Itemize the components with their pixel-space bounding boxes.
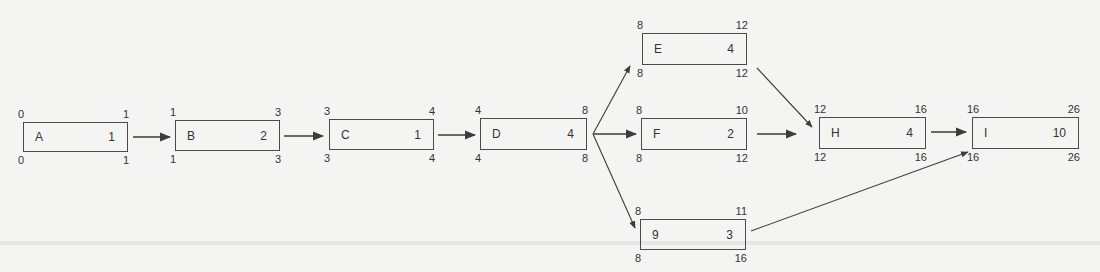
early-finish-label: 8 (582, 105, 588, 116)
activity-name: D (492, 127, 501, 141)
activity-duration: 3 (726, 228, 733, 242)
early-finish-label: 26 (1068, 104, 1080, 115)
early-start-label: 1 (170, 107, 176, 118)
activity-duration: 2 (260, 129, 267, 143)
activity-node-f: F2 (641, 118, 747, 150)
activity-duration: 4 (727, 42, 734, 56)
arrow-e-to-h (757, 68, 812, 127)
late-finish-label: 8 (582, 153, 588, 164)
activity-name: H (831, 126, 840, 140)
early-start-label: 16 (967, 104, 979, 115)
activity-duration: 1 (414, 128, 421, 142)
early-finish-label: 4 (429, 106, 435, 117)
early-finish-label: 12 (736, 20, 748, 31)
activity-duration: 10 (1053, 126, 1066, 140)
activity-name: B (187, 129, 195, 143)
late-finish-label: 3 (275, 154, 281, 165)
early-start-label: 0 (18, 109, 24, 120)
activity-name: 9 (652, 228, 659, 242)
early-finish-label: 11 (736, 206, 747, 217)
activity-node-e: E4 (642, 33, 747, 65)
late-start-label: 16 (967, 152, 979, 163)
activity-node-b: B2 (175, 120, 280, 151)
late-start-label: 1 (170, 154, 176, 165)
late-start-label: 8 (635, 253, 641, 264)
late-start-label: 8 (636, 153, 642, 164)
late-start-label: 8 (637, 68, 643, 79)
arrow-d-to-e (593, 66, 630, 134)
arrow-g-to-i (751, 152, 968, 231)
late-finish-label: 1 (123, 155, 129, 166)
activity-node-a: A1 (23, 122, 128, 152)
early-finish-label: 3 (275, 107, 281, 118)
late-finish-label: 16 (915, 152, 927, 163)
activity-node-h: H4 (819, 117, 926, 149)
activity-name: A (35, 130, 43, 144)
activity-name: F (653, 127, 660, 141)
activity-name: E (654, 42, 662, 56)
early-start-label: 8 (636, 105, 642, 116)
late-finish-label: 4 (429, 153, 435, 164)
early-start-label: 12 (814, 104, 826, 115)
activity-duration: 4 (567, 127, 574, 141)
late-finish-label: 26 (1068, 152, 1080, 163)
early-finish-label: 1 (123, 109, 129, 120)
late-start-label: 4 (475, 153, 481, 164)
activity-duration: 4 (906, 126, 913, 140)
late-start-label: 12 (814, 152, 826, 163)
late-finish-label: 12 (736, 153, 748, 164)
activity-name: I (984, 126, 987, 140)
early-finish-label: 10 (736, 105, 748, 116)
late-start-label: 3 (324, 153, 330, 164)
early-start-label: 4 (475, 105, 481, 116)
early-start-label: 8 (637, 20, 643, 31)
activity-node-g: 93 (640, 219, 746, 250)
late-start-label: 0 (18, 155, 24, 166)
early-start-label: 3 (324, 106, 330, 117)
late-finish-label: 12 (736, 68, 748, 79)
activity-name: C (341, 128, 350, 142)
activity-duration: 2 (727, 127, 734, 141)
arrow-d-to-g (593, 134, 635, 228)
network-diagram: A10101B21313C13434D44848E4812812F2810812… (0, 0, 1100, 272)
late-finish-label: 16 (735, 253, 747, 264)
activity-node-c: C1 (329, 119, 434, 150)
early-start-label: 8 (635, 206, 641, 217)
early-finish-label: 16 (915, 104, 927, 115)
activity-node-i: I10 (972, 117, 1079, 149)
activity-duration: 1 (108, 130, 115, 144)
activity-node-d: D4 (480, 118, 587, 150)
